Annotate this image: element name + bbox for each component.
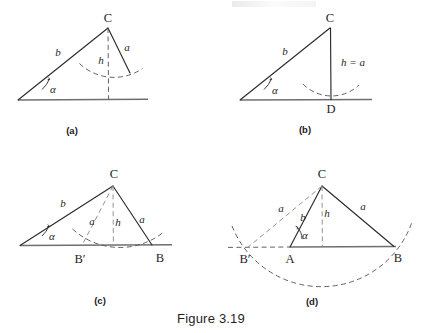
panel-a-side-b bbox=[18, 28, 108, 100]
panel-a-side-b-label: b bbox=[55, 47, 61, 58]
panel-c-side-b bbox=[20, 186, 113, 246]
panel-c-side-a-right-label: a bbox=[139, 214, 145, 225]
panel-d-side-a-right-label: a bbox=[360, 201, 366, 212]
figure-caption: Figure 3.19 bbox=[177, 311, 245, 326]
panel-b-height-equals-a-label: h = a bbox=[341, 57, 365, 68]
panel-d-side-a-right bbox=[322, 186, 394, 247]
panel-c-side-b-label: b bbox=[60, 198, 66, 209]
panel-b-side-b-label: b bbox=[282, 46, 288, 57]
panel-d-angle-alpha-label: α bbox=[302, 230, 308, 241]
panel-b-side-b bbox=[240, 28, 330, 100]
panel-a-height-h-label: h bbox=[98, 55, 104, 66]
panel-c-angle-arrowhead bbox=[47, 225, 49, 227]
figure-3-19: C b a h α (a) C b h = a α D (b) C b a h … bbox=[0, 0, 422, 333]
panel-a-drawing bbox=[18, 28, 148, 100]
panel-b-vertex-D: D bbox=[326, 103, 335, 116]
panel-a-angle-arrowhead bbox=[48, 78, 50, 80]
panel-d-vertex-C: C bbox=[318, 168, 326, 181]
panel-a-vertex-C: C bbox=[104, 12, 112, 25]
panel-a-angle-alpha-label: α bbox=[50, 84, 56, 95]
panel-d-height-h-label: h bbox=[324, 208, 330, 219]
panel-d-angle-arrowhead bbox=[296, 226, 298, 229]
panel-c-angle-alpha-label: α bbox=[49, 231, 55, 242]
panel-b-baseline bbox=[240, 99, 372, 100]
panel-c-sublabel: (c) bbox=[94, 295, 106, 306]
panel-c-baseline bbox=[20, 245, 172, 246]
panel-b-vertex-C: C bbox=[326, 12, 334, 25]
panel-c-vertex-B: B bbox=[156, 252, 164, 265]
figure-drawing bbox=[0, 0, 422, 333]
panel-b-sublabel: (b) bbox=[299, 124, 311, 135]
panel-b-height-equals-a bbox=[331, 28, 332, 100]
panel-d-drawing bbox=[228, 186, 412, 287]
panel-b-angle-alpha-label: α bbox=[272, 85, 278, 96]
panel-a-height-h bbox=[108, 28, 109, 99]
panel-a-side-a-label: a bbox=[124, 42, 130, 53]
panel-c-vertex-C: C bbox=[110, 168, 118, 181]
panel-c-side-a-left-label: a bbox=[89, 216, 95, 227]
panel-d-side-a-left-label: a bbox=[278, 203, 284, 214]
panel-a-arc-radius-a bbox=[80, 64, 143, 78]
panel-c-drawing bbox=[20, 186, 172, 247]
panel-a-baseline bbox=[18, 99, 148, 100]
panel-a-sublabel: (a) bbox=[66, 125, 78, 136]
panel-c-vertex-B-prime: B′ bbox=[74, 253, 85, 266]
panel-c-height-h-label: h bbox=[115, 217, 121, 228]
panel-c-side-a-left bbox=[82, 186, 113, 245]
panel-d-side-a-left bbox=[248, 186, 322, 247]
panel-d-vertex-A: A bbox=[285, 253, 294, 266]
panel-d-vertex-B-prime: B′ bbox=[239, 253, 250, 266]
panel-d-vertex-B: B bbox=[394, 252, 402, 265]
panel-d-sublabel: (d) bbox=[306, 296, 318, 307]
panel-b-angle-arrowhead bbox=[270, 78, 272, 80]
panel-d-side-b-label: b bbox=[300, 212, 306, 223]
panel-d-baseline bbox=[290, 246, 396, 247]
